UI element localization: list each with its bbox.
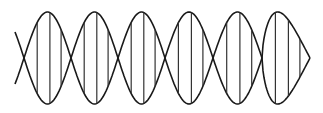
helix-svg	[0, 0, 323, 113]
helix-rungs	[37, 13, 300, 104]
dna-helix-diagram	[0, 0, 323, 113]
helix-strands	[15, 12, 310, 104]
